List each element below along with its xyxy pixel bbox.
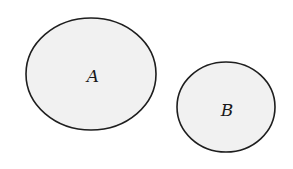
set-a-label: A xyxy=(85,66,99,86)
diagram-canvas: A B xyxy=(0,0,293,169)
venn-diagram: A B xyxy=(0,0,293,169)
set-b-label: B xyxy=(220,100,234,120)
